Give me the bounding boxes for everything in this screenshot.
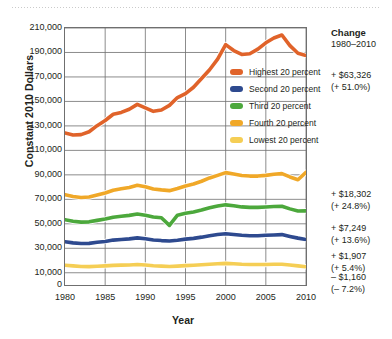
legend-swatch-icon [230, 137, 243, 143]
change-percent: (+ 51.0%) [331, 82, 371, 94]
legend-label: Highest 20 percent [249, 67, 320, 77]
y-tick-label: 50,000 [8, 219, 62, 228]
change-amount: + $1,907 [331, 251, 366, 263]
legend-item[interactable]: Lowest 20 percent [230, 131, 320, 148]
change-header: Change [331, 27, 366, 38]
x-tick-label: 1985 [85, 292, 125, 302]
y-tick-label: 30,000 [8, 243, 62, 252]
chart-figure: Constant 2010 Dollars Year 010,00030,000… [0, 0, 392, 339]
change-annotation: + $1,907(+ 5.4%) [331, 251, 366, 274]
x-tick-label: 2000 [206, 292, 246, 302]
legend-item[interactable]: Third 20 percent [230, 97, 320, 114]
change-amount: + $18,302 [331, 189, 371, 201]
y-tick-label: 110,000 [8, 145, 62, 154]
y-tick-label: 90,000 [8, 170, 62, 179]
y-tick-label: 150,000 [8, 96, 62, 105]
change-annotation: + $18,302(+ 24.8%) [331, 189, 371, 212]
x-tick-label: 1995 [166, 292, 206, 302]
x-tick-label: 2005 [246, 292, 286, 302]
legend-item[interactable]: Second 20 percent [230, 80, 320, 97]
change-annotation: – $1,160(– 7.2%) [331, 272, 366, 295]
legend-label: Second 20 percent [249, 84, 320, 94]
legend-label: Third 20 percent [249, 101, 311, 111]
x-tick-label: 1990 [125, 292, 165, 302]
y-tick-label: 70,000 [8, 194, 62, 203]
change-percent: (+ 24.8%) [331, 201, 371, 213]
legend-item[interactable]: Highest 20 percent [230, 63, 320, 80]
legend-swatch-icon [230, 69, 243, 75]
y-tick-label: 10,000 [8, 268, 62, 277]
legend-label: Fourth 20 percent [249, 118, 316, 128]
x-tick-label: 2010 [286, 292, 326, 302]
y-axis-ticks: 010,00030,00050,00070,00090,000110,00013… [4, 0, 62, 290]
top-divider-rule [12, 7, 380, 8]
y-tick-label: 210,000 [8, 23, 62, 32]
change-percent: (– 7.2%) [331, 284, 366, 296]
legend-swatch-icon [230, 103, 243, 109]
change-percent: (+ 13.6%) [331, 235, 370, 247]
change-annotation: + $63,326(+ 51.0%) [331, 70, 371, 93]
change-annotation: + $7,249(+ 13.6%) [331, 223, 370, 246]
x-tick-label: 1980 [45, 292, 85, 302]
y-tick-label: 190,000 [8, 47, 62, 56]
y-tick-label: 0 [8, 280, 62, 289]
chart-legend: Highest 20 percentSecond 20 percentThird… [230, 63, 320, 148]
legend-label: Lowest 20 percent [249, 135, 318, 145]
change-amount: – $1,160 [331, 272, 366, 284]
legend-item[interactable]: Fourth 20 percent [230, 114, 320, 131]
y-tick-label: 170,000 [8, 72, 62, 81]
change-subheader: 1980–2010 [331, 39, 376, 49]
legend-swatch-icon [230, 120, 243, 126]
legend-swatch-icon [230, 86, 243, 92]
change-amount: + $7,249 [331, 223, 370, 235]
change-amount: + $63,326 [331, 70, 371, 82]
x-axis-title: Year [58, 314, 308, 326]
y-tick-label: 130,000 [8, 121, 62, 130]
